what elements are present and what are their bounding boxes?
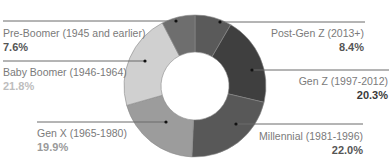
value-gen-x: 19.9% <box>37 141 68 154</box>
leader-dot-pre-boomer <box>174 19 177 22</box>
segment-millennial <box>192 94 264 157</box>
label-baby-boomer: Baby Boomer (1946-1964) <box>3 66 127 78</box>
value-pre-boomer: 7.6% <box>3 41 28 54</box>
value-baby-boomer: 21.8% <box>3 80 34 93</box>
leader-dot-millennial <box>234 122 237 125</box>
label-gen-x: Gen X (1965-1980) <box>37 127 127 139</box>
label-pre-boomer: Pre-Boomer (1945 and earlier) <box>3 27 145 39</box>
value-post-gen-z: 8.4% <box>339 41 364 54</box>
leader-dot-gen-x <box>164 120 167 123</box>
label-millennial: Millennial (1981-1996) <box>259 130 363 142</box>
segment-gen-x <box>127 95 194 157</box>
value-millennial: 22.0% <box>332 144 363 157</box>
leader-dot-gen-z <box>250 68 253 71</box>
label-gen-z: Gen Z (1997-2012) <box>299 75 388 87</box>
leader-dot-baby-boomer <box>143 59 146 62</box>
value-gen-z: 20.3% <box>357 89 388 102</box>
leader-dot-post-gen-z <box>218 20 221 23</box>
label-post-gen-z: Post-Gen Z (2013+) <box>271 27 364 39</box>
